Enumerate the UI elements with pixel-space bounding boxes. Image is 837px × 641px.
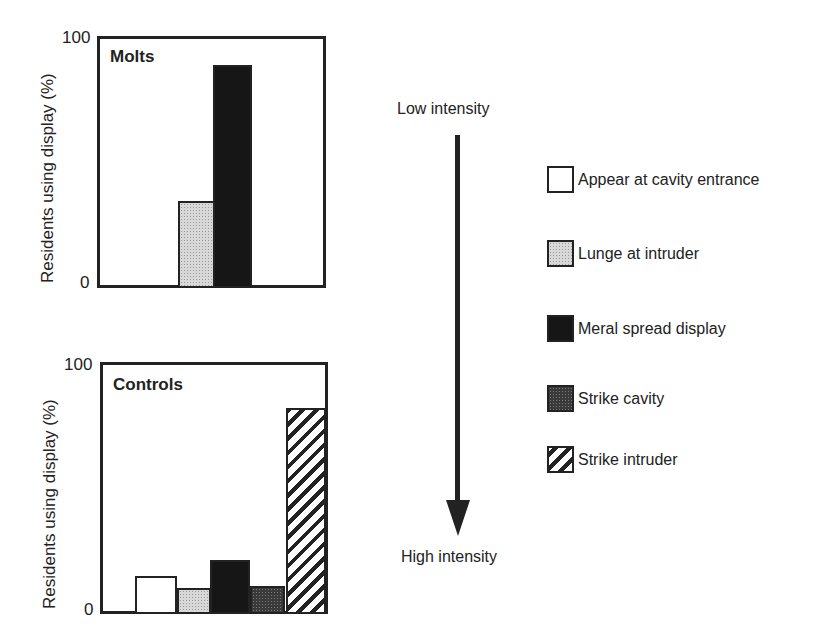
legend-label: Lunge at intruder bbox=[578, 245, 699, 263]
legend-item-lunge: Lunge at intruder bbox=[547, 240, 699, 267]
molts-y-tick-0: 0 bbox=[80, 273, 89, 293]
controls-bar-strike-cavity bbox=[250, 586, 285, 614]
controls-bar-lunge-at-intruder bbox=[177, 588, 211, 614]
controls-y-axis-label: Residents using display (%) bbox=[40, 399, 60, 609]
legend-item-strike-intruder: Strike intruder bbox=[547, 446, 678, 473]
molts-panel-title: Molts bbox=[110, 47, 154, 67]
molts-bar-meral-spread-display bbox=[213, 65, 252, 288]
arrow-down-icon bbox=[444, 500, 472, 538]
legend-item-meral: Meral spread display bbox=[547, 315, 726, 342]
legend-swatch-dark-stipple bbox=[547, 385, 574, 412]
intensity-arrow-shaft bbox=[455, 135, 460, 505]
legend-item-appear: Appear at cavity entrance bbox=[547, 166, 759, 193]
legend-item-strike-cavity: Strike cavity bbox=[547, 385, 664, 412]
controls-panel-title: Controls bbox=[113, 375, 183, 395]
legend-swatch-solid-black bbox=[547, 315, 574, 342]
legend-label: Appear at cavity entrance bbox=[578, 171, 759, 189]
high-intensity-label: High intensity bbox=[401, 548, 497, 566]
molts-plot-area: Molts bbox=[97, 36, 326, 288]
legend-label: Meral spread display bbox=[578, 320, 726, 338]
legend-swatch-open bbox=[547, 166, 574, 193]
controls-plot-area: Controls bbox=[100, 362, 328, 614]
molts-bar-lunge-at-intruder bbox=[178, 201, 215, 288]
controls-bar-strike-intruder bbox=[286, 408, 326, 614]
controls-bar-meral-spread-display bbox=[210, 560, 250, 614]
legend-swatch-diagonal-hatch bbox=[547, 446, 574, 473]
legend-label: Strike cavity bbox=[578, 390, 664, 408]
controls-y-tick-0: 0 bbox=[84, 600, 93, 620]
molts-y-axis-label: Residents using display (%) bbox=[38, 73, 58, 283]
legend-swatch-light-stipple bbox=[547, 240, 574, 267]
controls-y-tick-100: 100 bbox=[64, 355, 92, 375]
legend-label: Strike intruder bbox=[578, 451, 678, 469]
molts-y-tick-100: 100 bbox=[62, 28, 90, 48]
controls-bar-appear-at-cavity-entrance bbox=[135, 576, 177, 614]
low-intensity-label: Low intensity bbox=[397, 100, 490, 118]
